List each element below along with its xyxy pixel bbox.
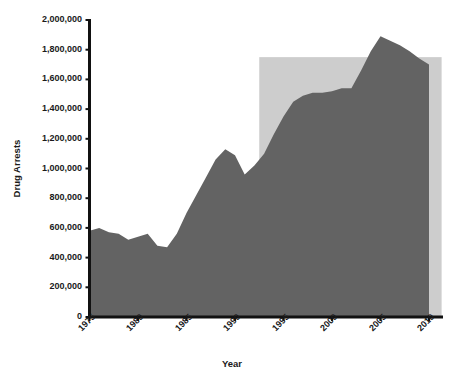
drug-arrests-area-chart: Drug Arrests 0200,000400,000600,000800,0… [0,0,464,383]
x-axis-title: Year [0,358,464,369]
